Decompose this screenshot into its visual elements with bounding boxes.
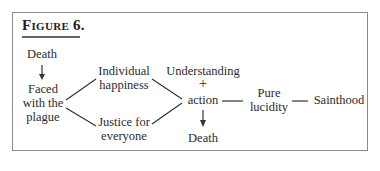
edge-faced-justice (66, 108, 96, 126)
diagram-edges (0, 0, 380, 171)
edge-individual-action (152, 79, 182, 99)
edge-faced-individual (66, 79, 96, 100)
arrowhead-down-icon (39, 74, 45, 80)
edge-justice-action (152, 103, 182, 124)
arrowhead-down-icon (200, 120, 206, 127)
